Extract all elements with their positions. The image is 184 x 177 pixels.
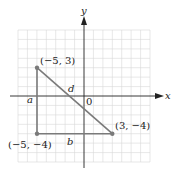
- segment-label-b: b: [67, 136, 73, 147]
- point-marker: [35, 66, 39, 70]
- point-marker: [35, 132, 39, 136]
- segment-label-a: a: [27, 94, 33, 105]
- y-axis-label: y: [80, 5, 87, 16]
- point-marker: [110, 132, 114, 136]
- point-label: (−5, −4): [8, 139, 52, 150]
- origin-label: 0: [86, 96, 92, 107]
- y-axis-arrow-icon: [81, 16, 87, 25]
- point-label: (−5, 3): [40, 55, 75, 66]
- segment-label-d: d: [68, 83, 74, 94]
- point-label: (3, −4): [115, 120, 150, 131]
- coordinate-diagram: y x 0 (−5, 3) (3, −4) (−5, −4) a b d: [0, 0, 184, 177]
- x-axis-label: x: [165, 90, 171, 101]
- x-axis-arrow-icon: [155, 93, 164, 99]
